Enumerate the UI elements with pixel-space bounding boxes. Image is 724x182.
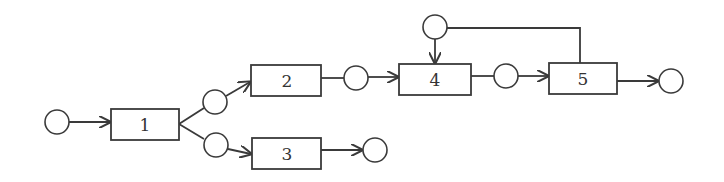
activity-label-1: 1 — [140, 115, 151, 135]
flow-diagram: 1 2 3 4 5 — [0, 0, 724, 182]
edge-b-to-2 — [226, 82, 250, 96]
edge-1-to-b — [179, 108, 204, 124]
activity-label-4: 4 — [430, 70, 441, 90]
node-circle-c — [204, 133, 228, 157]
activity-box-1: 1 — [111, 109, 179, 140]
activity-label-2: 2 — [282, 71, 293, 91]
node-circle-g — [494, 64, 518, 88]
activity-box-4: 4 — [399, 64, 471, 95]
activity-box-3: 3 — [252, 138, 321, 169]
node-circle-d — [344, 66, 368, 90]
node-circle-a — [45, 110, 69, 134]
node-circle-b — [203, 90, 227, 114]
activity-box-2: 2 — [251, 65, 321, 96]
activity-box-5: 5 — [549, 63, 617, 94]
node-circle-f — [423, 15, 447, 39]
node-circle-h — [659, 69, 683, 93]
activity-label-3: 3 — [282, 144, 293, 164]
edge-c-to-3 — [228, 149, 251, 154]
edge-1-to-c — [179, 124, 204, 139]
node-circle-e — [363, 138, 387, 162]
edge-5-to-f-feedback — [447, 28, 580, 63]
activity-label-5: 5 — [578, 69, 589, 89]
